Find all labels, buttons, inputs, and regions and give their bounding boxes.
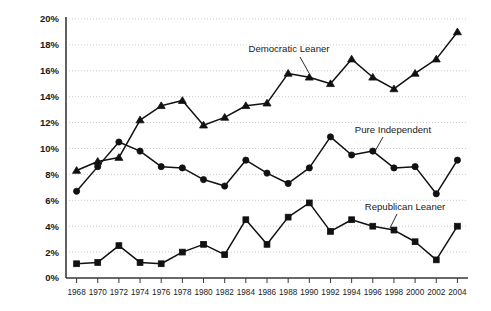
series-line <box>77 203 458 264</box>
data-point-marker <box>349 152 355 158</box>
x-tick-label: 1978 <box>173 288 192 297</box>
x-tick-label: 1998 <box>385 288 404 297</box>
x-tick-label: 1976 <box>152 288 171 297</box>
data-point-marker <box>328 228 334 234</box>
series-line <box>77 137 458 194</box>
data-point-marker <box>454 157 460 163</box>
x-tick-label: 1986 <box>258 288 277 297</box>
gridlines <box>66 19 468 278</box>
data-point-marker <box>158 164 164 170</box>
data-point-marker <box>179 249 185 255</box>
x-tick-label: 1974 <box>131 288 150 297</box>
data-point-marker <box>243 157 249 163</box>
y-tick-label: 10% <box>40 143 60 154</box>
series-lines <box>77 32 458 264</box>
data-point-marker <box>433 191 439 197</box>
x-tick-label: 1992 <box>321 288 340 297</box>
data-point-marker <box>348 55 356 62</box>
data-point-marker <box>391 165 397 171</box>
data-point-marker <box>178 97 186 104</box>
x-tick-label: 1990 <box>300 288 319 297</box>
data-point-marker <box>349 217 355 223</box>
data-point-marker <box>222 183 228 189</box>
x-tick-label: 1984 <box>237 288 256 297</box>
data-point-marker <box>306 165 312 171</box>
data-point-marker <box>285 214 291 220</box>
data-point-marker <box>201 241 207 247</box>
x-tick-labels: 1968197019721974197619781980198219841986… <box>67 288 467 297</box>
data-point-marker <box>455 223 461 229</box>
data-point-marker <box>95 260 101 266</box>
data-point-marker <box>221 114 229 121</box>
y-tick-label: 12% <box>40 117 60 128</box>
data-point-marker <box>264 170 270 176</box>
data-point-marker <box>222 252 228 258</box>
y-tick-label: 8% <box>45 169 59 180</box>
data-point-marker <box>433 257 439 263</box>
y-tick-label: 6% <box>45 195 59 206</box>
y-tick-label: 16% <box>40 65 60 76</box>
data-point-marker <box>116 139 122 145</box>
x-tick-label: 2002 <box>427 288 446 297</box>
chart-container: 0%2%4%6%8%10%12%14%16%18%20% 19681970197… <box>0 0 491 311</box>
data-point-marker <box>136 116 144 123</box>
line-chart: 0%2%4%6%8%10%12%14%16%18%20% 19681970197… <box>0 0 491 311</box>
x-tick-label: 2004 <box>448 288 467 297</box>
annotation-leader-line <box>300 57 309 73</box>
y-tick-label: 14% <box>40 91 60 102</box>
data-point-marker <box>264 241 270 247</box>
x-tick-label: 1980 <box>194 288 213 297</box>
y-tick-labels: 0%2%4%6%8%10%12%14%16%18%20% <box>40 13 60 283</box>
data-point-marker <box>74 261 80 267</box>
data-point-marker <box>243 217 249 223</box>
data-point-marker <box>73 188 79 194</box>
series-annotation-label: Pure Independent <box>355 124 432 135</box>
data-point-marker <box>200 176 206 182</box>
data-point-marker <box>137 260 143 266</box>
annotation-leader-line <box>374 137 383 153</box>
data-point-marker <box>116 243 122 249</box>
y-tick-label: 18% <box>40 39 60 50</box>
series-annotation-label: Republican Leaner <box>365 201 446 212</box>
data-point-marker <box>95 164 101 170</box>
data-point-marker <box>179 165 185 171</box>
y-tick-label: 4% <box>45 221 59 232</box>
data-point-marker <box>391 227 397 233</box>
data-point-marker <box>158 261 164 267</box>
data-point-marker <box>137 148 143 154</box>
x-tick-label: 1994 <box>343 288 362 297</box>
series-annotation-label: Democratic Leaner <box>248 43 330 54</box>
y-tick-label: 20% <box>40 13 60 24</box>
data-point-marker <box>115 154 123 161</box>
x-tick-label: 1982 <box>216 288 235 297</box>
data-point-marker <box>453 28 461 35</box>
data-point-marker <box>285 180 291 186</box>
x-tick-label: 1988 <box>279 288 298 297</box>
data-point-marker <box>370 223 376 229</box>
x-tick-label: 1968 <box>67 288 86 297</box>
x-tick-label: 1970 <box>89 288 108 297</box>
y-tick-label: 2% <box>45 247 59 258</box>
x-tick-label: 2000 <box>406 288 425 297</box>
y-tick-label: 0% <box>45 272 59 283</box>
data-point-marker <box>412 164 418 170</box>
data-point-marker <box>306 200 312 206</box>
data-point-marker <box>412 239 418 245</box>
data-point-marker <box>327 134 333 140</box>
x-tick-label: 1996 <box>364 288 383 297</box>
x-axis <box>66 278 468 283</box>
x-tick-label: 1972 <box>110 288 129 297</box>
series-annotations: Democratic LeanerPure IndependentRepubli… <box>248 43 446 228</box>
